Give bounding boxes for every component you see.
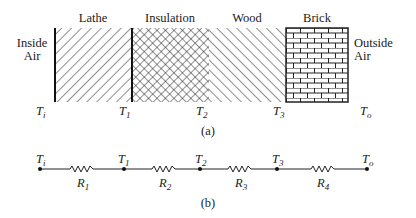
wall-temperature-labels: Ti T1 T2 T3 To [36,104,372,120]
label-outside-line2: Air [354,49,372,63]
temp-t3: T3 [273,104,285,120]
layer-insulation [132,28,209,102]
resistor-r3 [200,166,277,172]
layer-wood [209,28,286,102]
composite-wall-diagram: Lathe Insulation Wood Brick Inside Air O… [0,0,416,218]
resistor-label-r4: R4 [316,176,330,192]
resistor-r4 [277,166,367,172]
temp-t2: T2 [196,104,208,120]
label-wood: Wood [232,11,262,25]
label-lathe: Lathe [79,11,108,25]
caption-b: (b) [201,196,216,210]
node-label-t1: T1 [118,152,129,168]
temp-ti: Ti [36,104,46,120]
resistor-label-r2: R2 [158,176,172,192]
temp-to: To [360,104,372,120]
temp-t1: T1 [119,104,130,120]
node-ti [38,167,42,171]
resistor-r1 [40,166,124,172]
wall-layers [55,28,348,102]
node-label-to: To [362,152,374,168]
label-brick: Brick [303,11,332,25]
node-label-t3: T3 [272,152,284,168]
label-inside-line1: Inside [17,36,48,50]
label-inside-line2: Air [24,49,42,63]
layer-lathe [55,28,132,102]
resistor-r2 [124,166,200,172]
label-insulation: Insulation [145,11,196,25]
layer-brick [286,28,348,102]
node-label-ti: Ti [36,152,46,168]
resistor-label-r1: R1 [76,176,89,192]
node-label-t2: T2 [195,152,207,168]
resistor-label-r3: R3 [234,176,248,192]
caption-a: (a) [201,124,215,138]
label-outside-line1: Outside [354,36,393,50]
